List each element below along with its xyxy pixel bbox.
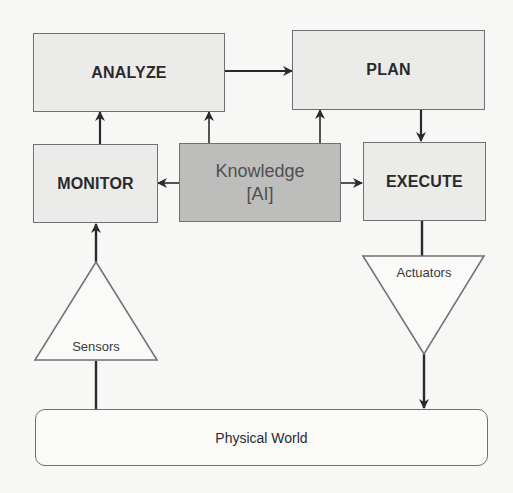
execute-box: EXECUTE [363, 142, 486, 221]
knowledge-box: Knowledge [AI] [179, 143, 341, 222]
plan-label: PLAN [366, 61, 410, 79]
execute-label: EXECUTE [386, 173, 463, 191]
monitor-label: MONITOR [57, 175, 134, 193]
sensors-label: Sensors [72, 339, 120, 354]
physical-world-label: Physical World [215, 430, 307, 446]
analyze-label: ANALYZE [91, 64, 167, 82]
actuators-label: Actuators [397, 265, 452, 280]
physical-world-box: Physical World [35, 409, 488, 466]
knowledge-sublabel: [AI] [246, 183, 273, 206]
monitor-box: MONITOR [33, 144, 158, 223]
analyze-box: ANALYZE [33, 33, 225, 112]
knowledge-label: Knowledge [215, 160, 304, 183]
plan-box: PLAN [292, 30, 485, 110]
